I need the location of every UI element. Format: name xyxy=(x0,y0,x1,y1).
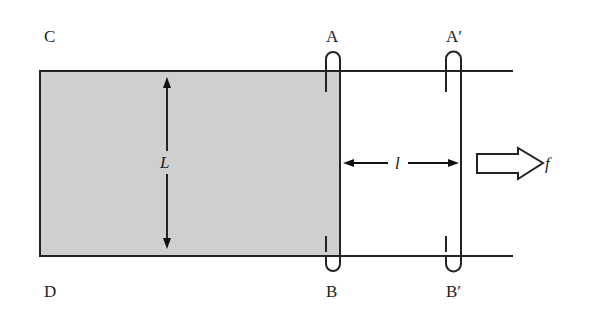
force-label: f xyxy=(545,154,552,173)
width-label: L xyxy=(159,153,169,172)
label-C: C xyxy=(44,27,55,46)
label-A: A xyxy=(326,27,339,46)
label-B: B xyxy=(326,282,337,301)
force-arrow-icon xyxy=(477,148,543,179)
displacement-arrow xyxy=(343,159,459,167)
label-A-prime: A′ xyxy=(446,27,462,46)
label-B-prime: B′ xyxy=(446,282,461,301)
label-D: D xyxy=(44,282,56,301)
shaded-region xyxy=(40,71,340,256)
sliding-bar-diagram: L l f C D A B A′ B′ xyxy=(0,0,589,320)
displacement-label: l xyxy=(395,154,400,173)
